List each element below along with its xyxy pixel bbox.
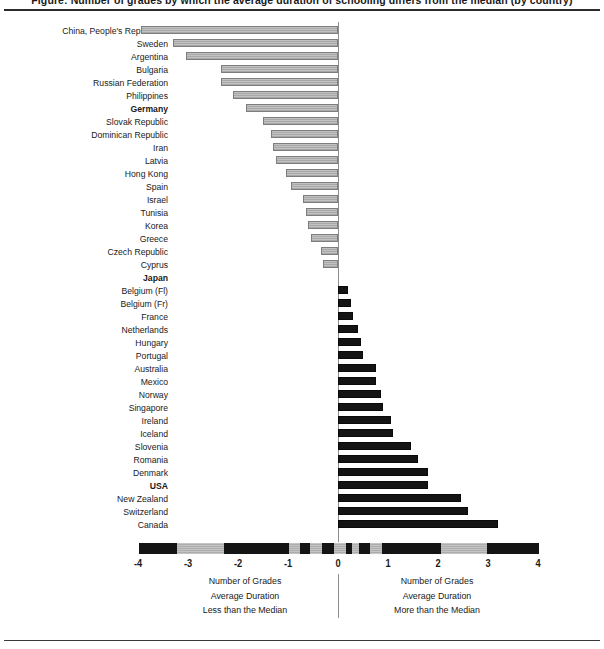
ruler-segment <box>352 543 359 554</box>
country-label: Romania <box>17 453 168 466</box>
country-label: Argentina <box>17 50 168 63</box>
bar-row: Sweden <box>0 37 604 50</box>
bar-negative <box>233 91 338 99</box>
legend-more-than-median: Number of GradesAverage DurationMore tha… <box>352 574 522 618</box>
bar-row: Singapore <box>0 401 604 414</box>
country-label: Russian Federation <box>17 76 168 89</box>
bar-negative <box>321 247 339 255</box>
bar-row: Belgium (Fr) <box>0 297 604 310</box>
bar-row: USA <box>0 479 604 492</box>
bar-row: France <box>0 310 604 323</box>
country-label: Canada <box>17 518 168 531</box>
bar-positive <box>338 325 358 333</box>
bar-negative <box>173 39 338 47</box>
bar-negative <box>303 195 338 203</box>
legend-line: Average Duration <box>167 589 323 604</box>
bar-positive <box>338 299 351 307</box>
plot-area: China, People's Republic ofSwedenArgenti… <box>0 22 604 542</box>
bar-negative <box>246 104 339 112</box>
country-label: Slovenia <box>17 440 168 453</box>
bar-row: Spain <box>0 180 604 193</box>
bar-positive <box>338 364 376 372</box>
bar-positive <box>338 481 428 489</box>
bar-row: Belgium (Fl) <box>0 284 604 297</box>
bar-row: Philippines <box>0 89 604 102</box>
bar-row: Latvia <box>0 154 604 167</box>
x-tick-label: 4 <box>520 556 555 571</box>
bar-negative <box>263 117 338 125</box>
legend-line: Number of Grades <box>167 574 323 589</box>
bar-negative <box>306 208 339 216</box>
country-label: Dominican Republic <box>17 128 168 141</box>
country-label: New Zealand <box>17 492 168 505</box>
country-label: Spain <box>17 180 168 193</box>
bar-negative <box>308 221 338 229</box>
country-label: Mexico <box>17 375 168 388</box>
bar-row: Russian Federation <box>0 76 604 89</box>
ruler-segment <box>177 543 225 554</box>
bar-row: Ireland <box>0 414 604 427</box>
ruler-segment <box>370 543 382 554</box>
legend-line: Average Duration <box>359 589 515 604</box>
bar-row: Slovak Republic <box>0 115 604 128</box>
country-label: Greece <box>17 232 168 245</box>
country-label: Sweden <box>17 37 168 50</box>
bar-row: Denmark <box>0 466 604 479</box>
bar-negative <box>286 169 339 177</box>
country-label: Hong Kong <box>17 167 168 180</box>
bar-negative <box>271 130 339 138</box>
bar-row: Slovenia <box>0 440 604 453</box>
bar-negative <box>221 78 339 86</box>
country-label: Philippines <box>17 89 168 102</box>
country-label: Denmark <box>17 466 168 479</box>
bar-positive <box>338 390 381 398</box>
bar-row: Greece <box>0 232 604 245</box>
x-tick-label: -1 <box>270 556 305 571</box>
bar-positive <box>338 312 353 320</box>
country-label: Hungary <box>17 336 168 349</box>
country-label: Australia <box>17 362 168 375</box>
bar-negative <box>141 26 339 34</box>
figure-page: Figure: Number of grades by which the av… <box>0 0 604 649</box>
legend-line: Number of Grades <box>359 574 515 589</box>
ruler-segment <box>441 543 487 554</box>
bar-row: China, People's Republic of <box>0 24 604 37</box>
bar-negative <box>291 182 339 190</box>
bar-negative <box>311 234 339 242</box>
country-label: Ireland <box>17 414 168 427</box>
country-label: Switzerland <box>17 505 168 518</box>
country-label: Latvia <box>17 154 168 167</box>
legend-less-than-median: Number of GradesAverage DurationLess tha… <box>160 574 330 618</box>
x-axis-tick-labels: -4-3-2-101234 <box>0 556 604 572</box>
bar-row: Hungary <box>0 336 604 349</box>
bar-row: Cyprus <box>0 258 604 271</box>
bar-positive <box>338 338 361 346</box>
bar-negative <box>323 260 338 268</box>
ruler-segment <box>289 543 300 554</box>
bar-row: Netherlands <box>0 323 604 336</box>
x-tick-label: 2 <box>420 556 455 571</box>
bottom-rule <box>4 640 600 641</box>
country-label: Slovak Republic <box>17 115 168 128</box>
bar-row: Australia <box>0 362 604 375</box>
bar-row: Tunisia <box>0 206 604 219</box>
country-label: Germany <box>17 102 168 115</box>
bar-row: Bulgaria <box>0 63 604 76</box>
country-label: Belgium (Fr) <box>17 297 168 310</box>
bar-row: Dominican Republic <box>0 128 604 141</box>
bar-chart: China, People's Republic ofSwedenArgenti… <box>0 22 604 622</box>
country-label: Korea <box>17 219 168 232</box>
figure-caption-text: Figure: Number of grades by which the av… <box>0 0 604 7</box>
x-tick-label: 0 <box>320 556 355 571</box>
bar-row: Israel <box>0 193 604 206</box>
ruler-segment <box>310 543 322 554</box>
country-label: Norway <box>17 388 168 401</box>
x-tick-label: -3 <box>170 556 205 571</box>
bar-row: Germany <box>0 102 604 115</box>
country-label: Israel <box>17 193 168 206</box>
bar-negative <box>186 52 339 60</box>
bar-positive <box>338 429 393 437</box>
bar-negative <box>276 156 339 164</box>
bar-row: Argentina <box>0 50 604 63</box>
country-label: USA <box>17 479 168 492</box>
